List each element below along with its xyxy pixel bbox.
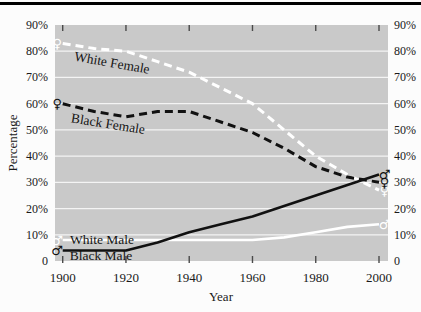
y-tick-label-left: 70% xyxy=(14,71,48,83)
marker-female-icon: ♀ xyxy=(52,36,62,51)
x-tick-label: 1900 xyxy=(50,271,76,284)
line-chart: ♀♀♀♀♂♂♂♂ xyxy=(0,0,421,312)
y-tick-label-left: 10% xyxy=(14,229,48,241)
y-tick-label-right: 70% xyxy=(394,71,416,83)
y-tick-label-left: 90% xyxy=(14,19,48,31)
y-tick-label-left: 80% xyxy=(14,45,48,57)
marker-male-icon: ♂ xyxy=(379,217,391,232)
x-axis-title: Year xyxy=(209,289,233,305)
y-tick-label-left: 20% xyxy=(14,203,48,215)
y-tick-label-right: 30% xyxy=(394,176,416,188)
y-tick-label-left: 0 xyxy=(14,255,48,267)
y-tick-label-right: 20% xyxy=(394,203,416,215)
x-tick-label: 1960 xyxy=(239,271,265,284)
x-tick-label: 1920 xyxy=(113,271,139,284)
marker-male-icon: ♂ xyxy=(379,167,391,182)
y-tick-label-right: 90% xyxy=(394,19,416,31)
marker-female-icon: ♀ xyxy=(52,96,62,111)
y-tick-label-left: 60% xyxy=(14,98,48,110)
series-label-black-male: Black Male xyxy=(70,249,133,263)
y-tick-label-right: 0 xyxy=(394,255,400,267)
x-tick-label: 1940 xyxy=(176,271,202,284)
y-tick-label-right: 60% xyxy=(394,98,416,110)
figure: ♀♀♀♀♂♂♂♂ 0010%10%20%20%30%30%40%40%50%50… xyxy=(0,0,421,312)
marker-male-icon: ♂ xyxy=(51,243,63,258)
y-tick-label-right: 40% xyxy=(394,150,416,162)
y-tick-label-right: 10% xyxy=(394,229,416,241)
x-tick-label: 1980 xyxy=(303,271,329,284)
x-tick-label: 2000 xyxy=(366,271,392,284)
y-axis-title: Percentage xyxy=(5,114,21,171)
series-label-white-male: White Male xyxy=(70,233,134,247)
y-tick-label-right: 50% xyxy=(394,124,416,136)
y-tick-label-left: 30% xyxy=(14,176,48,188)
y-tick-label-right: 80% xyxy=(394,45,416,57)
